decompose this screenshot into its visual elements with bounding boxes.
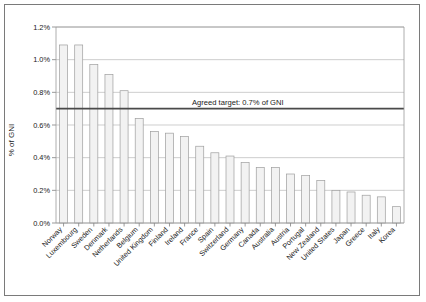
bar <box>181 136 189 223</box>
bar <box>392 207 400 223</box>
bar <box>362 195 370 223</box>
y-tick-label: 1.0% <box>33 55 50 64</box>
y-tick-label: 0.2% <box>33 186 50 195</box>
bar <box>271 167 279 223</box>
y-tick-label: 0.4% <box>33 153 50 162</box>
bar <box>256 167 264 223</box>
bar <box>302 176 310 223</box>
bar <box>332 190 340 223</box>
annotation-label: Agreed target: 0.7% of GNI <box>192 98 284 107</box>
y-axis-ticks <box>52 27 56 223</box>
x-tick-label: Korea <box>377 224 398 245</box>
bar <box>226 156 234 223</box>
y-tick-label: 0.8% <box>33 88 50 97</box>
bar <box>211 153 219 223</box>
bar <box>150 132 158 223</box>
y-tick-label: 0.6% <box>33 121 50 130</box>
bar <box>75 45 83 223</box>
target-annotation: Agreed target: 0.7% of GNI <box>192 98 284 107</box>
bar <box>317 181 325 223</box>
bar-chart: 0.0%0.2%0.4%0.6%0.8%1.0%1.2% NorwayLuxem… <box>0 0 426 302</box>
bar <box>241 163 249 223</box>
bar-series <box>60 45 401 223</box>
y-tick-label: 0.0% <box>33 219 50 228</box>
bar <box>60 45 68 223</box>
y-axis-title: % of GNI <box>7 124 16 156</box>
y-axis-tick-labels: 0.0%0.2%0.4%0.6%0.8%1.0%1.2% <box>33 23 50 228</box>
bar <box>287 174 295 223</box>
y-tick-label: 1.2% <box>33 23 50 32</box>
x-axis-tick-labels: NorwayLuxembourgSwedenDenmarkNetherlands… <box>40 224 397 268</box>
bar <box>377 197 385 223</box>
bar <box>120 91 128 223</box>
bar <box>90 65 98 223</box>
bar <box>165 133 173 223</box>
bar <box>347 192 355 223</box>
x-axis-ticks <box>64 223 397 227</box>
bar <box>196 146 204 223</box>
bar <box>105 74 113 223</box>
bar <box>135 118 143 223</box>
